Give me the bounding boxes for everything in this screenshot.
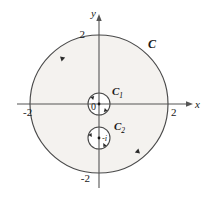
- y-axis-label: y: [90, 7, 96, 19]
- origin-label: 0: [91, 101, 96, 112]
- x-axis-label: x: [194, 98, 200, 110]
- contour-C2-label-subscript: 2: [121, 126, 125, 135]
- x-tick-label-negative-2: -2: [23, 106, 32, 118]
- y-tick-label-positive-2: 2: [80, 28, 86, 40]
- y-axis-arrowhead: [96, 14, 101, 21]
- minus-i-point-label: -i: [102, 133, 108, 143]
- contour-diagram-canvas: y x 2 -2 -2 2 0 C C1 C2 -i: [0, 0, 210, 201]
- contour-diagram-figure: y x 2 -2 -2 2 0 C C1 C2 -i: [0, 0, 210, 201]
- x-tick-label-positive-2: 2: [171, 106, 177, 118]
- x-axis-arrowhead: [186, 101, 193, 106]
- y-tick-label-negative-2: -2: [81, 172, 90, 184]
- contour-C1-label-subscript: 1: [119, 91, 123, 100]
- contour-C-label: C: [148, 37, 157, 51]
- minus-i-point-marker: [98, 137, 101, 140]
- origin-point-marker: [98, 103, 101, 106]
